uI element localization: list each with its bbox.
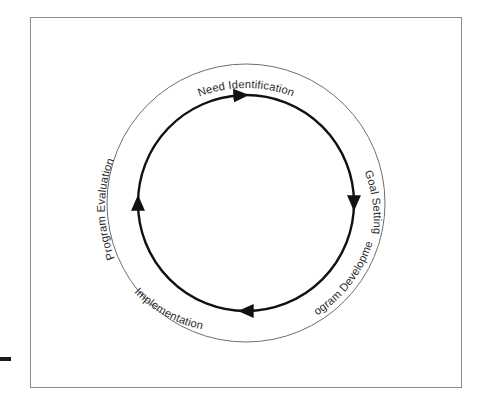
stage-label-goal-setting: Goal Setting [363, 168, 384, 234]
cycle-diagram: Need Identification Goal Setting Program… [0, 0, 491, 415]
stage-label-program-development: Program Development [0, 0, 375, 317]
diagram-page: Need Identification Goal Setting Program… [0, 0, 491, 415]
arrow-segment-left [138, 203, 246, 311]
arrow-segment-top [138, 95, 241, 203]
stage-label-implementation: Implementation [133, 285, 205, 331]
inner-cycle-ring [138, 95, 354, 311]
arrow-segment-right [246, 95, 354, 203]
